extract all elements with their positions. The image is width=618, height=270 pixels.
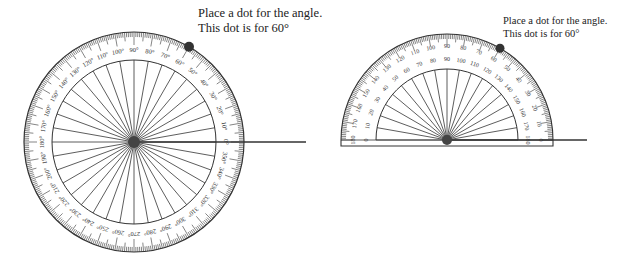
inner-scale-label: 90 <box>444 56 450 62</box>
center-pivot <box>128 136 140 148</box>
inner-scale-label: 10 <box>364 123 371 130</box>
degree-label: 270° <box>127 231 140 238</box>
outer-scale-label: 10 <box>536 120 543 127</box>
full-circle-protractor: 0°10°20°30°40°50°60°70°80°90°100°110°120… <box>24 32 306 252</box>
left-caption: Place a dot for the angle. This dot is f… <box>198 6 322 36</box>
left-caption-line1: Place a dot for the angle. <box>198 6 322 21</box>
outer-scale-label: 80 <box>460 44 467 51</box>
angle-dot <box>496 44 505 53</box>
semicircle-protractor: 1801701601501401301201101009080706050403… <box>341 34 587 146</box>
right-caption-line1: Place a dot for the angle. <box>503 14 607 27</box>
degree-label: 180° <box>38 135 45 148</box>
outer-scale-label: 180 <box>350 136 356 145</box>
right-caption-line2: This dot is for 60° <box>503 27 607 40</box>
protractor-canvas: 0°10°20°30°40°50°60°70°80°90°100°110°120… <box>0 0 618 270</box>
outer-scale-label: 90 <box>444 43 450 49</box>
inner-scale-label: 80 <box>430 57 437 64</box>
center-pivot <box>442 135 452 145</box>
inner-scale-label: 0 <box>363 139 369 142</box>
angle-dot <box>184 42 194 52</box>
degree-label: 90° <box>129 46 139 53</box>
protractor-diagram: 0°10°20°30°40°50°60°70°80°90°100°110°120… <box>0 0 618 270</box>
right-caption: Place a dot for the angle. This dot is f… <box>503 14 607 40</box>
left-caption-line2: This dot is for 60° <box>198 21 322 36</box>
